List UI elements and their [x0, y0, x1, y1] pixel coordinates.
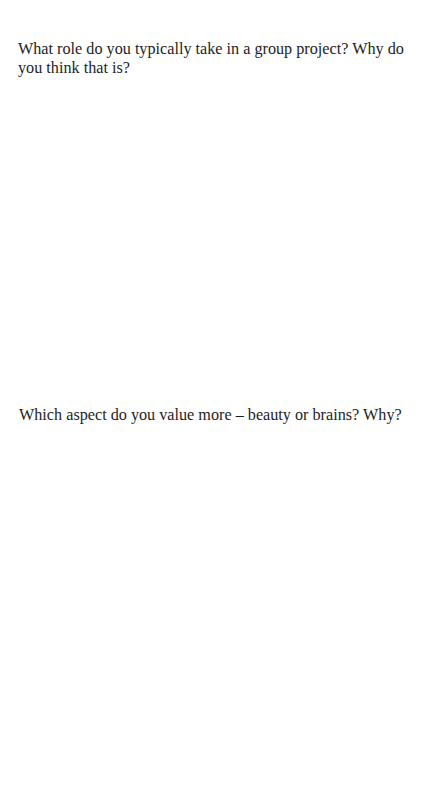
cut-off-previous-text	[0, 0, 443, 4]
question-2: Which aspect do you value more – beauty …	[19, 406, 431, 425]
answer-space-1	[18, 82, 430, 392]
question-1: What role do you typically take in a gro…	[18, 40, 430, 78]
answer-space-2	[18, 430, 430, 790]
